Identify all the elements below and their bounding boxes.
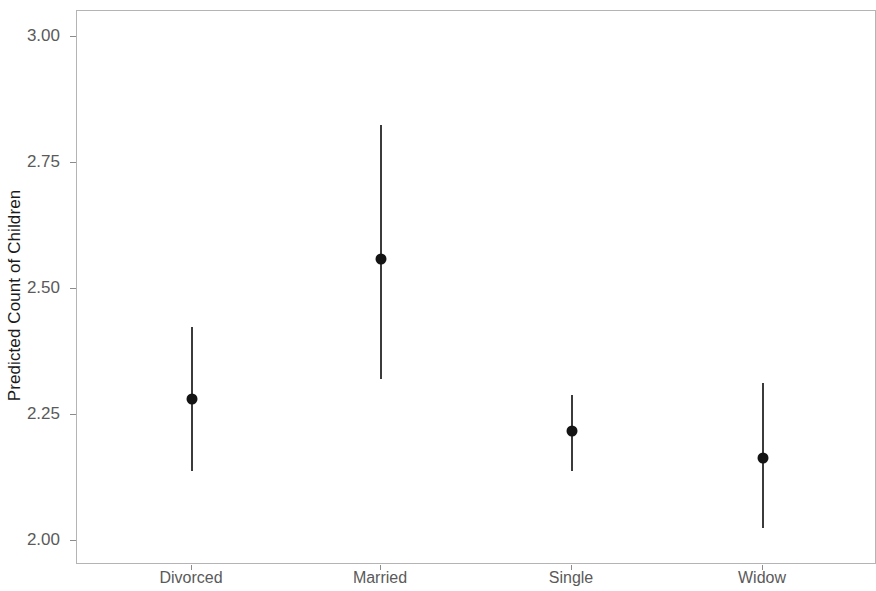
- x-tick-label-divorced: Divorced: [159, 569, 222, 587]
- point-widow: [758, 453, 769, 464]
- point-divorced: [187, 394, 198, 405]
- point-single: [567, 426, 578, 437]
- point-married: [376, 254, 387, 265]
- x-tick-label-widow: Widow: [738, 569, 786, 587]
- y-tick-label-3.00: 3.00: [0, 26, 60, 46]
- y-tick-label-2.00: 2.00: [0, 530, 60, 550]
- y-tick-label-2.50: 2.50: [0, 278, 60, 298]
- plot-panel: [76, 10, 876, 564]
- x-tick-label-single: Single: [549, 569, 593, 587]
- y-tick-label-2.75: 2.75: [0, 152, 60, 172]
- x-tick-label-married: Married: [353, 569, 407, 587]
- y-tick-label-2.25: 2.25: [0, 404, 60, 424]
- errorbar-married: [380, 125, 382, 379]
